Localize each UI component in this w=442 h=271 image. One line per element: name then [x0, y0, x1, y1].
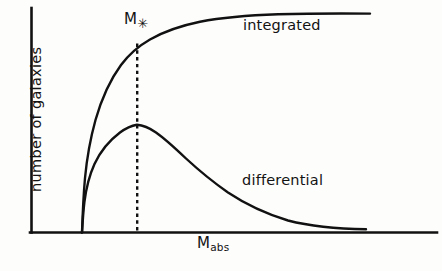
integrated-curve [82, 13, 370, 232]
x-axis-label-subscript: abs [210, 241, 229, 253]
plot-canvas [0, 0, 442, 271]
mstar-subscript-star-icon: ✳ [137, 16, 148, 31]
mstar-annotation-label: M✳ [124, 12, 148, 30]
y-axis-label: number of galaxies [29, 39, 44, 199]
differential-curve [82, 125, 366, 233]
galaxy-luminosity-function-figure: number of galaxies Mabs M✳ integrated di… [0, 0, 442, 271]
mstar-symbol: M [124, 10, 137, 28]
differential-curve-label: differential [242, 173, 323, 188]
x-axis-label-symbol: M [197, 234, 210, 252]
integrated-curve-label: integrated [243, 18, 321, 33]
x-axis-label: Mabs [197, 236, 229, 252]
